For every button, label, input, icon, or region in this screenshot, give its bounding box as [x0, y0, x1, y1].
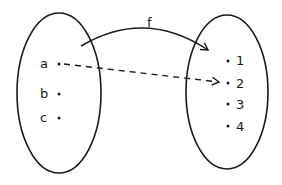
domain-element-c: c [40, 110, 47, 125]
domain-element-b: b [40, 86, 48, 101]
function-arrow [81, 28, 208, 50]
domain-element-a: a [40, 56, 48, 71]
point-c [58, 117, 61, 120]
point-2 [227, 82, 230, 85]
point-b [58, 93, 61, 96]
mapping-arrow-a-to-2 [64, 64, 219, 82]
point-1 [227, 60, 230, 63]
codomain-element-4: 4 [236, 119, 244, 134]
point-a [58, 63, 61, 66]
function-diagram: f a b c 1 2 3 4 [0, 0, 282, 185]
codomain-set-ellipse [186, 15, 268, 169]
function-label: f [147, 15, 152, 30]
codomain-element-1: 1 [236, 53, 244, 68]
codomain-element-2: 2 [236, 76, 244, 91]
point-4 [227, 125, 230, 128]
codomain-element-3: 3 [236, 97, 244, 112]
point-3 [227, 103, 230, 106]
